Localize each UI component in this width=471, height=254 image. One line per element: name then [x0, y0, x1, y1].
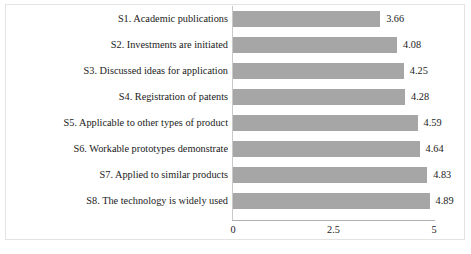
- bar: [233, 37, 397, 53]
- bar: [233, 11, 380, 27]
- x-axis-tick-label: 0: [230, 224, 235, 236]
- plot-area: S1. Academic publications3.66S2. Investm…: [0, 0, 471, 254]
- value-label: 4.25: [410, 65, 428, 77]
- value-label: 4.08: [403, 39, 421, 51]
- category-label: S4. Registration of patents: [119, 91, 228, 103]
- bar: [233, 115, 418, 131]
- value-label: 4.59: [424, 117, 442, 129]
- category-label: S2. Investments are initiated: [111, 39, 228, 51]
- bar: [233, 193, 430, 209]
- bar-chart: S1. Academic publications3.66S2. Investm…: [0, 0, 471, 254]
- value-label: 4.28: [411, 91, 429, 103]
- category-label: S6. Workable prototypes demonstrate: [73, 143, 228, 155]
- bar: [233, 141, 420, 157]
- x-axis-line: [232, 220, 435, 221]
- value-label: 3.66: [386, 13, 404, 25]
- category-label: S8. The technology is widely used: [86, 195, 228, 207]
- bar: [233, 63, 404, 79]
- bar: [233, 89, 405, 105]
- value-label: 4.83: [433, 169, 451, 181]
- category-label: S1. Academic publications: [118, 13, 228, 25]
- bar: [233, 167, 427, 183]
- x-axis-tick-label: 5: [431, 224, 436, 236]
- category-label: S3. Discussed ideas for application: [84, 65, 228, 77]
- category-label: S5. Applicable to other types of product: [64, 117, 228, 129]
- value-label: 4.89: [436, 195, 454, 207]
- x-axis-tick-label: 2.5: [327, 224, 340, 236]
- value-label: 4.64: [426, 143, 444, 155]
- category-label: S7. Applied to similar products: [100, 169, 228, 181]
